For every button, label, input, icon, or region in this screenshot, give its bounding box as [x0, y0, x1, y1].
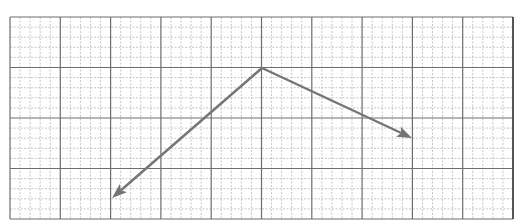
- vector-right: [262, 68, 412, 138]
- grid-diagram: [0, 0, 522, 221]
- vector-shaft: [122, 68, 262, 189]
- grid-paper: [10, 17, 513, 219]
